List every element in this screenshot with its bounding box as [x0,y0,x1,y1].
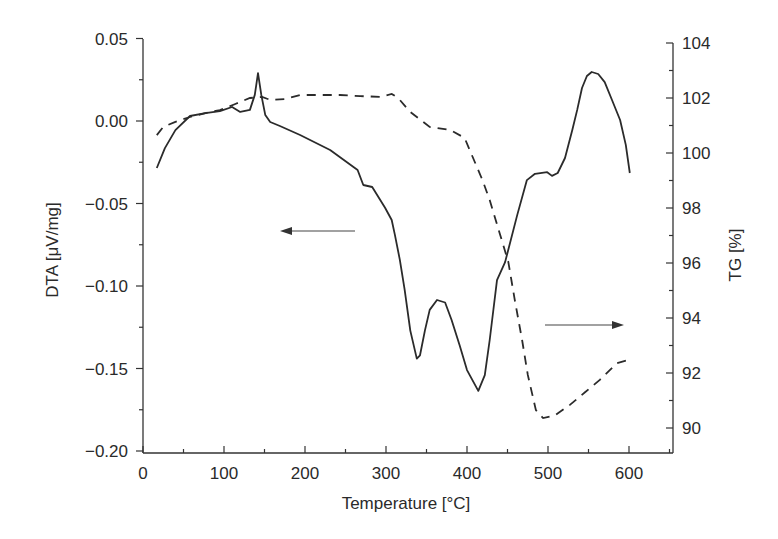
x-tick-label: 200 [291,464,319,483]
right-y-tick-label: 92 [682,364,701,383]
left-y-tick-label: 0.05 [95,30,128,49]
right-y-tick-label: 104 [682,34,710,53]
dta-axis-arrow [280,227,355,235]
x-tick-label: 400 [453,464,481,483]
dta-tg-chart: 0100200300400500600 0.050.00−0.05−0.10−0… [0,0,778,539]
x-ticks: 0100200300400500600 [138,446,669,483]
tg-curve [157,94,628,418]
left-y-tick-label: −0.15 [85,360,128,379]
x-axis-title: Temperature [°C] [342,494,471,513]
right-y-tick-label: 98 [682,199,701,218]
left-y-tick-label: −0.05 [85,195,128,214]
right-y-tick-label: 94 [682,309,701,328]
left-y-tick-label: −0.20 [85,442,128,461]
x-tick-label: 500 [534,464,562,483]
x-tick-label: 300 [372,464,400,483]
right-y-axis-title: TG [%] [726,229,745,282]
left-y-tick-label: −0.10 [85,277,128,296]
tg-axis-arrow [545,321,624,329]
right-y-tick-label: 100 [682,144,710,163]
left-y-ticks: 0.050.00−0.05−0.10−0.15−0.20 [85,30,143,462]
right-y-tick-label: 90 [682,419,701,438]
right-y-tick-label: 96 [682,254,701,273]
x-tick-label: 100 [210,464,238,483]
x-tick-label: 600 [615,464,643,483]
axes [143,39,673,453]
arrow-left-icon [280,227,292,235]
arrow-right-icon [612,321,624,329]
dta-curve [157,72,630,391]
left-y-tick-label: 0.00 [95,112,128,131]
right-y-tick-label: 102 [682,89,710,108]
left-y-axis-title: DTA [μV/mg] [43,202,62,297]
x-tick-label: 0 [138,464,147,483]
